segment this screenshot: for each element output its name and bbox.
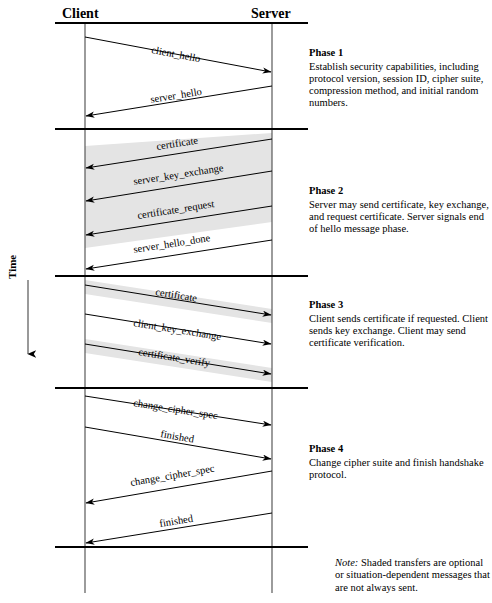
phase-1-title: Phase 1 [309, 47, 489, 60]
shaded-band-phase3-certificate [85, 280, 272, 323]
phase-2-description-block: Phase 2 Server may send certificate, key… [309, 185, 489, 235]
phase-4-description-block: Phase 4 Change cipher suite and finish h… [309, 443, 489, 481]
note-body-text: Shaded transfers are optional or situati… [335, 557, 490, 593]
phase-4-title: Phase 4 [309, 443, 489, 456]
message-label-change-cipher-spec-client: change_cipher_spec [133, 397, 219, 421]
phase-4-description: Change cipher suite and finish handshake… [309, 457, 489, 482]
phase-3-description-block: Phase 3 Client sends certificate if requ… [309, 299, 489, 349]
message-label-client-hello: client_hello [151, 44, 202, 64]
message-label-server-hello: server_hello [150, 86, 203, 105]
message-label-finished-client: finished [160, 428, 196, 445]
ssl-handshake-diagram: client_hello server_hello certificate se… [0, 0, 492, 603]
note-lead-label: Note: [335, 557, 358, 568]
phase-3-description: Client sends certificate if requested. C… [309, 313, 489, 350]
phase-1-messages: client_hello server_hello [85, 37, 272, 116]
message-label-change-cipher-spec-server: change_cipher_spec [129, 463, 215, 488]
phase-3-messages: certificate client_key_exchange certific… [85, 285, 271, 374]
message-label-client-key-exchange: client_key_exchange [133, 317, 223, 342]
client-column-header: Client [62, 6, 99, 22]
server-column-header: Server [251, 6, 291, 22]
phase-2-description: Server may send certificate, key exchang… [309, 199, 489, 236]
phase-2-title: Phase 2 [309, 185, 489, 198]
phase-3-title: Phase 3 [309, 299, 489, 312]
phase-1-description: Establish security capabilities, includi… [309, 61, 489, 110]
phase-1-description-block: Phase 1 Establish security capabilities,… [309, 47, 489, 110]
time-axis-label: Time [6, 255, 18, 279]
phase-4-messages: change_cipher_spec finished change_ciphe… [85, 396, 272, 543]
shaded-transfer-note: Note: Shaded transfers are optional or s… [335, 557, 490, 594]
